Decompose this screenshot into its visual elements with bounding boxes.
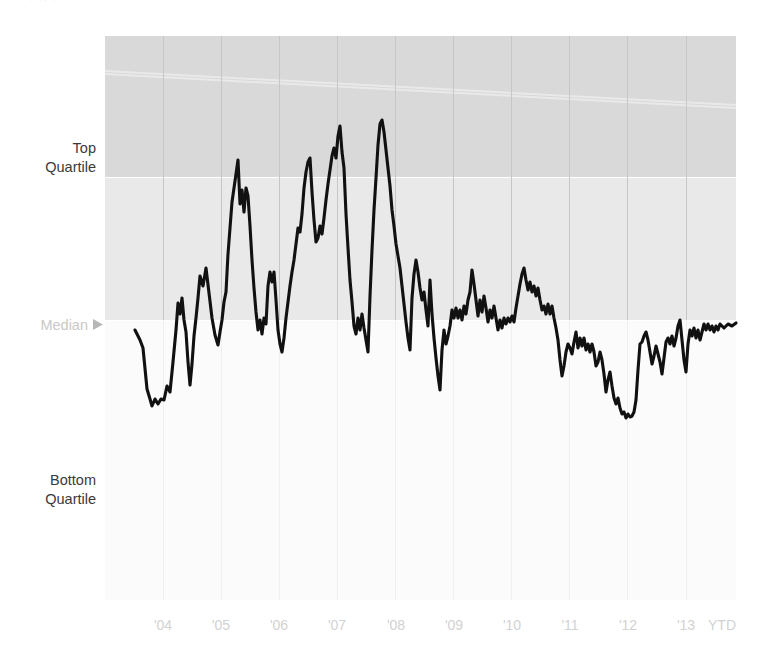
band-below-median — [105, 320, 736, 600]
x-tick-5: '09 — [445, 617, 463, 633]
x-tick-10: YTD — [708, 617, 736, 633]
band-top-quartile — [105, 36, 736, 177]
x-tick-8: '12 — [619, 617, 637, 633]
quartile-performance-chart: Top Quartile Median Bottom Quartile '04 … — [0, 0, 764, 669]
y-label-median: Median — [40, 317, 88, 333]
y-label-bottom-quartile-line2: Quartile — [45, 491, 96, 507]
x-tick-6: '10 — [503, 617, 521, 633]
x-axis-tick-labels: '04 '05 '06 '07 '08 '09 '10 '11 '12 '13 … — [154, 617, 736, 633]
x-tick-4: '08 — [387, 617, 405, 633]
y-label-top-quartile-line2: Quartile — [45, 159, 96, 175]
median-pointer-triangle-icon — [93, 319, 103, 330]
x-tick-9: '13 — [677, 617, 695, 633]
band-group — [105, 36, 736, 600]
x-tick-1: '05 — [212, 617, 230, 633]
x-tick-7: '11 — [561, 617, 578, 633]
x-tick-0: '04 — [154, 617, 172, 633]
chart-figure: · ·· · — [0, 0, 764, 669]
y-label-top-quartile-line1: Top — [73, 140, 96, 156]
x-tick-2: '06 — [270, 617, 288, 633]
y-axis-labels: Top Quartile Median Bottom Quartile — [40, 140, 103, 507]
y-label-bottom-quartile-line1: Bottom — [50, 472, 96, 488]
x-tick-3: '07 — [328, 617, 346, 633]
